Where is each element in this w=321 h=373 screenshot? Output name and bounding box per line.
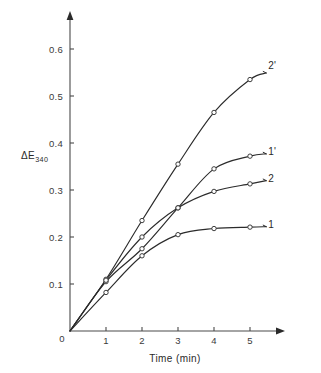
y-tick-label: 0.6 <box>49 44 63 55</box>
x-tick-label: 2 <box>139 335 145 346</box>
x-axis-title: Time (min) <box>149 353 200 364</box>
y-tick-label: 0.4 <box>49 138 63 149</box>
data-point <box>176 206 180 210</box>
data-point <box>248 182 252 186</box>
data-point <box>212 110 216 114</box>
data-point <box>176 232 180 236</box>
x-tick-label: 5 <box>247 335 253 346</box>
data-point <box>104 290 108 294</box>
y-axis-title-main: ΔE <box>21 150 35 161</box>
data-point <box>212 167 216 171</box>
data-point <box>140 218 144 222</box>
x-tick-label: 3 <box>175 335 181 346</box>
series-label-1: 1 <box>268 219 274 230</box>
data-point <box>248 154 252 158</box>
y-tick-label: 0.2 <box>49 232 63 243</box>
kinetics-line-chart: 0.10.20.30.40.50.6 12345 0 ΔE340 Time (m… <box>0 0 321 373</box>
series-label-1-prime: 1' <box>268 146 276 157</box>
data-point <box>248 77 252 81</box>
chart-figure: 0.10.20.30.40.50.6 12345 0 ΔE340 Time (m… <box>0 0 321 373</box>
data-point <box>212 226 216 230</box>
y-tick-label: 0.1 <box>49 279 63 290</box>
data-point <box>176 162 180 166</box>
x-tick-label: 1 <box>103 335 109 346</box>
series-label-2: 2 <box>268 173 274 184</box>
y-tick-label: 0.3 <box>49 185 63 196</box>
data-point <box>248 225 252 229</box>
data-point <box>140 254 144 258</box>
y-axis-title-subscript: 340 <box>35 155 48 164</box>
data-point <box>140 235 144 239</box>
origin-label: 0 <box>59 333 64 344</box>
y-tick-label: 0.5 <box>49 91 63 102</box>
series-label-2-prime: 2' <box>268 60 276 71</box>
data-point <box>212 189 216 193</box>
data-point <box>140 247 144 251</box>
data-point <box>104 278 108 282</box>
x-tick-label: 4 <box>211 335 217 346</box>
